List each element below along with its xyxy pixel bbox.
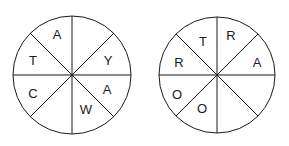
wheel-letter: O xyxy=(172,87,182,102)
wheel-letter: C xyxy=(28,86,37,101)
wheel-letter: O xyxy=(197,101,207,116)
left-wheel: AYAWCT xyxy=(13,16,131,134)
letter-wheels-diagram: AYAWCTTRAOOR xyxy=(0,0,289,146)
wheel-letter: R xyxy=(226,28,235,43)
wheel-letter: T xyxy=(199,34,207,49)
wheel-letter: A xyxy=(103,82,112,97)
wheel-letter: A xyxy=(253,55,262,70)
wheel-letter: R xyxy=(174,55,183,70)
wheel-letter: W xyxy=(80,102,93,117)
wheel-letter: T xyxy=(29,53,37,68)
wheel-letter: A xyxy=(53,27,62,42)
right-wheel: TRAOOR xyxy=(159,17,275,133)
wheel-letter: Y xyxy=(104,53,113,68)
